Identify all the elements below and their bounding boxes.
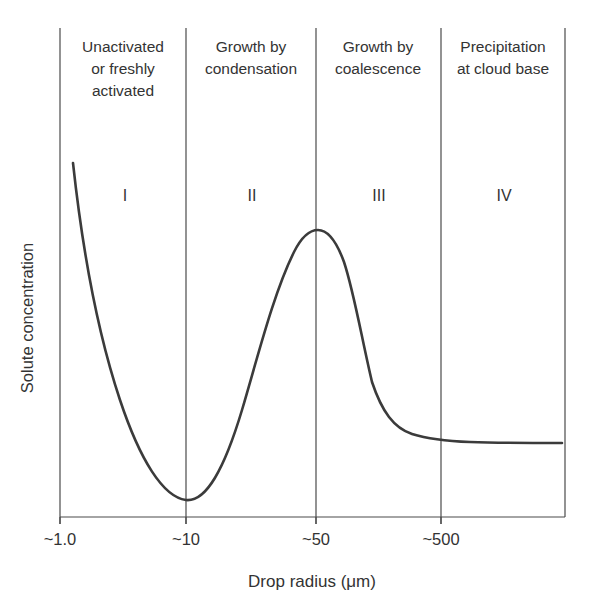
region-title-2-line2: condensation <box>205 60 297 77</box>
x-tick-label-4: ~500 <box>422 530 459 548</box>
x-tick-label-2: ~10 <box>172 530 200 548</box>
x-tick-label-3: ~50 <box>302 530 330 548</box>
region-title-3-line2: coalescence <box>335 60 421 77</box>
region-title-2-line1: Growth by <box>216 38 287 55</box>
region-title-4-line1: Precipitation <box>460 38 545 55</box>
region-title-1-line1: Unactivated <box>82 38 164 55</box>
region-numeral-2: II <box>248 187 257 204</box>
x-axis-title: Drop radius (μm) <box>248 572 376 591</box>
region-title-1-line3: activated <box>92 82 154 99</box>
region-title-3-line1: Growth by <box>343 38 414 55</box>
chart-background <box>0 0 589 601</box>
region-numeral-4: IV <box>496 187 511 204</box>
chart-figure: Unactivated or freshly activated Growth … <box>0 0 589 601</box>
y-axis-title: Solute concentration <box>18 243 36 393</box>
region-numeral-3: III <box>372 187 385 204</box>
solute-concentration-chart: Unactivated or freshly activated Growth … <box>0 0 589 601</box>
region-numeral-1: I <box>123 187 127 204</box>
region-title-1-line2: or freshly <box>91 60 155 77</box>
x-tick-label-1: ~1.0 <box>44 530 77 548</box>
region-title-4-line2: at cloud base <box>457 60 549 77</box>
